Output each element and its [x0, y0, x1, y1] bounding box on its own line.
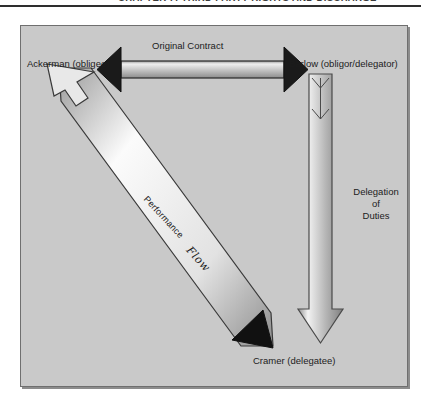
node-label-ackerman: Ackerman (obligee)	[27, 58, 109, 70]
edge-label-delegation-line2: of	[346, 198, 406, 210]
edge-label-delegation-line3: Duties	[346, 210, 406, 222]
running-head-text: Chapter 7: Third Party Rights and Discha…	[118, 0, 418, 3]
edge-original-contract-arrow	[97, 47, 308, 92]
node-label-barlow: Barlow (obligor/delegator)	[289, 58, 398, 70]
node-label-cramer: Cramer (delegatee)	[253, 355, 335, 367]
edge-label-delegation-line1: Delegation	[346, 186, 406, 198]
running-head-rule	[0, 5, 421, 7]
edge-label-original-contract: Original Contract	[152, 40, 223, 51]
edge-label-delegation: Delegation of Duties	[346, 186, 406, 222]
original-contract-shaft	[121, 61, 284, 78]
figure-frame: Ackerman (obligee) Barlow (obligor/deleg…	[20, 25, 408, 387]
running-head: Chapter 7: Third Party Rights and Discha…	[0, 0, 421, 9]
performance-shaft	[59, 68, 273, 346]
edge-delegation-arrow	[298, 74, 343, 343]
